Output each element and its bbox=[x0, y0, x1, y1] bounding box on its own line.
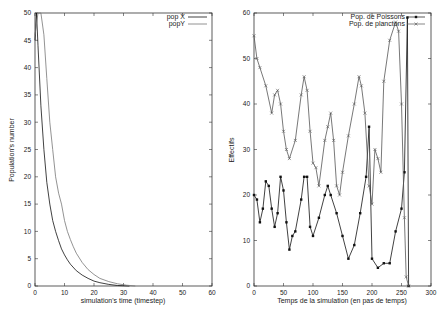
right-chart: 0501001502002503000102030405060 Temps de… bbox=[0, 0, 446, 315]
right-legend: Pop. de Poissons Pop. de planctons bbox=[349, 13, 425, 28]
right-xtick-label: 250 bbox=[396, 289, 407, 296]
figure: 010203040506005101520253035404550 simula… bbox=[0, 0, 446, 315]
right-series-1-line bbox=[254, 22, 409, 286]
right-xlabel: Temps de la simulation (en pas de temps) bbox=[277, 297, 407, 305]
right-xtick-label: 0 bbox=[252, 289, 256, 296]
right-ytick-label: 60 bbox=[243, 9, 251, 16]
right-ytick-label: 20 bbox=[243, 191, 251, 198]
right-xtick-label: 150 bbox=[337, 289, 348, 296]
right-ylabel: Effectifs bbox=[228, 137, 235, 162]
right-ytick-label: 40 bbox=[243, 100, 251, 107]
right-xtick-label: 100 bbox=[308, 289, 319, 296]
legend-label-planctons: Pop. de planctons bbox=[349, 20, 406, 28]
right-ytick-label: 10 bbox=[243, 237, 251, 244]
right-xtick-label: 50 bbox=[280, 289, 288, 296]
right-ytick-label: 50 bbox=[243, 55, 251, 62]
right-xtick-label: 200 bbox=[367, 289, 378, 296]
right-series-0-line bbox=[254, 18, 409, 286]
right-xtick-label: 300 bbox=[426, 289, 437, 296]
right-ytick-label: 30 bbox=[243, 146, 251, 153]
right-ytick-label: 0 bbox=[246, 282, 250, 289]
